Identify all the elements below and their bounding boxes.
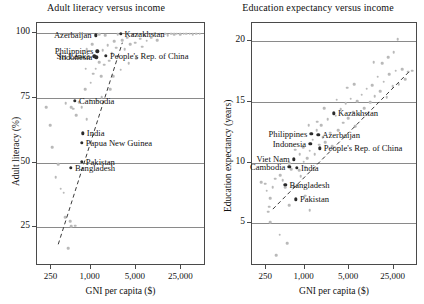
data-point: [80, 106, 83, 109]
data-point: [112, 75, 115, 78]
data-point: [95, 67, 98, 70]
data-point: [401, 68, 404, 71]
data-point: [306, 157, 309, 160]
data-point: [269, 197, 272, 200]
data-point: [141, 45, 144, 48]
data-point: [129, 43, 132, 46]
chart-panel-education-expectancy: Education expectancy versus income 51015…: [212, 0, 424, 304]
data-point: [74, 224, 77, 227]
data-point: [366, 88, 369, 91]
data-point: [100, 75, 103, 78]
data-point: [113, 40, 116, 43]
data-point: [134, 41, 137, 44]
data-point-label: Philippines: [269, 129, 308, 139]
data-point-label: Bangladesh: [75, 163, 115, 173]
data-point: [313, 153, 316, 156]
chart-title-left: Adult literacy versus income: [0, 2, 212, 13]
data-point: [62, 191, 65, 194]
y-tick-mark: [247, 222, 251, 223]
data-point: [98, 33, 101, 36]
x-tick-label: 5,000: [125, 271, 145, 281]
data-point: [119, 69, 122, 72]
data-point: [145, 39, 148, 42]
data-point: [327, 118, 330, 121]
data-point: [109, 88, 112, 91]
data-point: [393, 51, 396, 54]
data-point: [294, 148, 297, 151]
data-point: [382, 80, 385, 83]
y-tick-label: 25: [0, 220, 30, 230]
data-point-label: India: [87, 128, 105, 138]
data-point: [59, 187, 62, 190]
chart-title-right: Education expectancy versus income: [212, 2, 424, 13]
data-point-label: Papua New Guinea: [86, 138, 152, 148]
data-point: [323, 107, 326, 110]
data-point: [45, 106, 48, 109]
data-point: [54, 176, 57, 179]
data-point: [72, 107, 75, 110]
figure-container: Adult literacy versus income 25507510025…: [0, 0, 424, 304]
data-point-label: People's Rep. of China: [324, 143, 402, 153]
data-point: [373, 95, 376, 98]
data-point-label: Kazakhstan: [338, 108, 378, 118]
data-point: [84, 88, 87, 91]
data-point: [101, 49, 104, 52]
y-tick-mark: [247, 101, 251, 102]
data-point: [175, 32, 178, 35]
data-point: [342, 122, 345, 125]
data-point: [272, 186, 275, 189]
x-tick-label: 25,000: [168, 271, 193, 281]
data-point: [387, 56, 390, 59]
data-point: [335, 98, 338, 101]
data-point: [397, 83, 400, 86]
data-point: [75, 114, 78, 117]
data-point: [356, 100, 359, 103]
x-tick-label: 25,000: [380, 271, 405, 281]
data-point-label: Azerbaijan: [54, 30, 92, 40]
y-tick-label: 5: [215, 216, 245, 226]
data-point: [290, 168, 293, 171]
data-point: [278, 233, 281, 236]
x-axis-title-left: GNI per capita ($): [86, 286, 156, 296]
data-point: [103, 63, 106, 66]
data-point: [354, 125, 357, 128]
x-tick-mark: [304, 265, 305, 269]
data-point: [49, 124, 52, 127]
data-point: [372, 61, 375, 64]
data-point: [396, 38, 399, 41]
data-point: [199, 33, 202, 36]
data-point: [85, 118, 88, 121]
data-point-label: Kazakhstan: [125, 29, 165, 39]
data-point: [84, 67, 87, 70]
data-point-label: India: [301, 163, 319, 173]
data-point: [156, 39, 159, 42]
data-point: [376, 75, 379, 78]
data-point: [195, 32, 198, 35]
data-point-label: Cambodia: [250, 162, 285, 172]
data-point: [70, 225, 73, 228]
x-tick-mark: [50, 265, 51, 269]
data-point-label: Bangladesh: [289, 180, 329, 190]
x-tick-mark: [180, 265, 181, 269]
data-point: [395, 69, 398, 72]
data-point: [92, 72, 95, 75]
x-tick-label: 1,000: [293, 271, 313, 281]
data-point: [192, 33, 195, 36]
data-point: [57, 163, 60, 166]
data-point: [411, 69, 414, 72]
data-point: [381, 62, 384, 65]
data-point: [166, 34, 169, 37]
data-point: [308, 149, 311, 152]
data-point: [298, 153, 301, 156]
data-point: [179, 33, 182, 36]
data-point: [404, 78, 407, 81]
data-point: [185, 33, 188, 36]
data-point: [312, 139, 315, 142]
x-tick-mark: [90, 265, 91, 269]
data-point: [369, 101, 372, 104]
data-point: [90, 81, 93, 84]
data-point: [318, 143, 321, 146]
data-point: [274, 177, 277, 180]
data-point: [316, 120, 319, 123]
data-point: [284, 186, 287, 189]
